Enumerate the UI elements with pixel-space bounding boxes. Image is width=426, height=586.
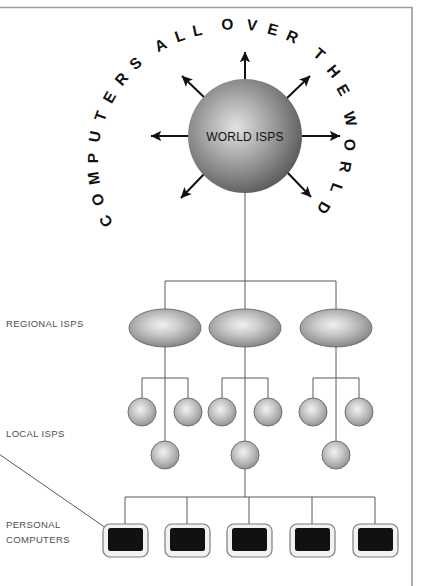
connector-wires — [0, 182, 375, 528]
node-local-isp-5[interactable] — [254, 398, 282, 426]
tier-labels: REGIONAL ISPS LOCAL ISPS PERSONAL COMPUT… — [6, 318, 84, 545]
ring-letter: O — [88, 191, 108, 208]
page-frame — [0, 8, 412, 586]
wire-group-local-1 — [142, 345, 188, 452]
node-local-isp-1[interactable] — [128, 398, 156, 426]
node-personal-computer-1[interactable] — [103, 524, 148, 557]
isp-hierarchy-diagram: C O M P U T E R S A L L O V E R T H — [0, 0, 426, 586]
ring-letter: M — [84, 171, 103, 186]
ring-letter: E — [99, 89, 119, 106]
node-personal-computer-3[interactable] — [227, 524, 272, 557]
ring-letter: T — [310, 44, 329, 63]
ring-letter: U — [85, 130, 104, 144]
ring-letter: L — [172, 26, 186, 45]
ring-letter: R — [111, 69, 131, 89]
ring-letter: L — [191, 21, 204, 40]
ring-letter: V — [246, 16, 259, 34]
node-regional-isp-1[interactable] — [129, 309, 201, 347]
node-personal-computer-2[interactable] — [165, 524, 210, 557]
ring-letter: L — [327, 181, 346, 196]
label-local-isps: LOCAL ISPS — [6, 428, 65, 439]
ring-letter: S — [126, 53, 145, 73]
ring-letter: E — [333, 81, 353, 98]
node-personal-computer-4[interactable] — [290, 524, 335, 557]
node-world-isps-label: WORLD ISPS — [206, 130, 283, 144]
node-local-isp-4[interactable] — [208, 398, 236, 426]
label-regional-isps: REGIONAL ISPS — [6, 318, 84, 329]
node-local-isp-7[interactable] — [299, 398, 327, 426]
ring-letter: E — [266, 20, 280, 39]
node-world-isps[interactable]: WORLD ISPS — [188, 79, 302, 193]
ring-letter: R — [336, 160, 355, 174]
arrow-southeast — [286, 171, 311, 197]
arrow-northeast — [285, 76, 310, 100]
ring-letter: T — [91, 108, 110, 123]
node-local-isp-6[interactable] — [231, 441, 259, 469]
node-regional-isp-2[interactable] — [209, 309, 281, 347]
tier-regional-isps — [129, 309, 372, 347]
wire-group-local-3 — [313, 345, 359, 452]
node-local-isp-9[interactable] — [322, 441, 350, 469]
label-personal-computers-line1: PERSONAL — [6, 519, 61, 530]
ring-letter: O — [341, 138, 358, 151]
node-local-isp-3[interactable] — [151, 441, 179, 469]
ring-letter: W — [340, 110, 360, 129]
node-personal-computer-5[interactable] — [353, 524, 398, 557]
arrow-northwest — [182, 76, 207, 100]
label-personal-computers-line2: COMPUTERS — [6, 534, 70, 545]
ring-letter: P — [84, 153, 101, 163]
diagram-canvas: C O M P U T E R S A L L O V E R T H — [0, 0, 426, 586]
node-local-isp-2[interactable] — [174, 398, 202, 426]
ring-letter: H — [324, 61, 344, 80]
node-regional-isp-3[interactable] — [300, 309, 372, 347]
tier-personal-computers — [103, 524, 398, 557]
node-local-isp-8[interactable] — [345, 398, 373, 426]
ring-letter: D — [314, 199, 334, 217]
callout-leader-personal-computers — [0, 452, 106, 528]
ring-letter: A — [152, 35, 170, 55]
arrow-southwest — [181, 172, 206, 198]
ring-letter: C — [96, 212, 116, 230]
ring-letter: O — [221, 15, 234, 32]
ring-letter: R — [284, 26, 301, 46]
